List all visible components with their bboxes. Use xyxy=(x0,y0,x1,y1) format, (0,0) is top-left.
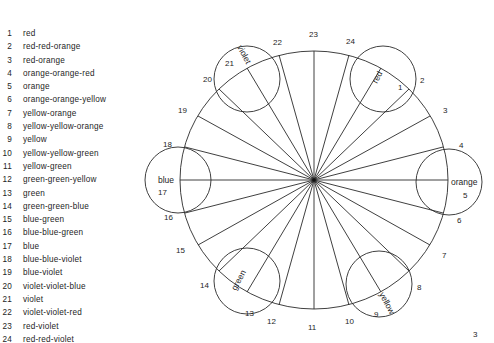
hue-label-blue: blue xyxy=(158,175,174,185)
wheel-number-10: 10 xyxy=(345,317,354,326)
wheel-number-13: 13 xyxy=(245,309,254,318)
wheel-number-2: 2 xyxy=(420,76,425,85)
hue-label-green: green xyxy=(229,268,248,292)
wheel-number-18: 18 xyxy=(163,140,172,149)
hue-circle-green xyxy=(214,248,280,314)
wheel-number-17: 17 xyxy=(158,188,167,197)
wheel-number-7: 7 xyxy=(442,251,447,260)
wheel-center xyxy=(312,178,316,182)
wheel-number-24: 24 xyxy=(346,37,355,46)
wheel-number-4: 4 xyxy=(459,141,464,150)
color-wheel-diagram: red orange yellow green blue violet 1 5 … xyxy=(0,0,494,343)
hue-label-orange: orange xyxy=(451,177,478,187)
wheel-number-19: 19 xyxy=(178,106,187,115)
wheel-number-14: 14 xyxy=(200,281,209,290)
page-number: 3 xyxy=(473,330,477,339)
wheel-number-15: 15 xyxy=(176,246,185,255)
wheel-number-23: 23 xyxy=(309,30,318,39)
wheel-number-6: 6 xyxy=(457,216,462,225)
wheel-number-22: 22 xyxy=(273,38,282,47)
wheel-number-8: 8 xyxy=(417,283,422,292)
hue-circle-yellow xyxy=(346,251,412,317)
wheel-number-11: 11 xyxy=(308,323,317,332)
wheel-number-21: 21 xyxy=(225,59,234,68)
wheel-number-5: 5 xyxy=(463,191,468,200)
wheel-number-1: 1 xyxy=(398,83,403,92)
wheel-number-3: 3 xyxy=(443,106,448,115)
wheel-number-9: 9 xyxy=(374,310,379,319)
wheel-number-12: 12 xyxy=(267,317,276,326)
wheel-number-20: 20 xyxy=(203,75,212,84)
wheel-number-16: 16 xyxy=(164,213,173,222)
hue-label-yellow: yellow xyxy=(377,290,397,316)
hue-circle-red xyxy=(350,46,416,112)
